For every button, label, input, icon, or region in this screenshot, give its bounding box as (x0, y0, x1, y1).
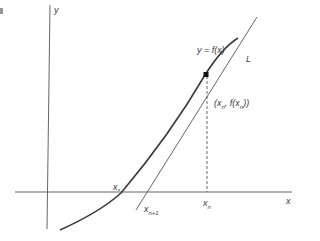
point-label-mid: , f(x (225, 98, 240, 108)
y-axis (47, 5, 50, 229)
next-iterate-label: xn+1 (144, 205, 159, 216)
point-label-open: (x (214, 98, 222, 108)
point-label: (xn, f(xn)) (214, 99, 249, 110)
tangent-point-marker (204, 72, 209, 77)
point-label-close: )) (243, 98, 249, 108)
root-label: x* (113, 183, 120, 194)
current-iterate-sub: n (208, 204, 211, 210)
next-iterate-sub: n+1 (149, 210, 159, 216)
tangent-label: L (246, 55, 251, 64)
function-curve (60, 38, 238, 230)
root-label-sub: * (118, 188, 120, 194)
current-iterate-label: xn (203, 199, 211, 210)
curve-label: y = f(x) (197, 46, 225, 55)
x-axis-label: x (286, 197, 291, 206)
y-axis-label: y (54, 6, 59, 15)
